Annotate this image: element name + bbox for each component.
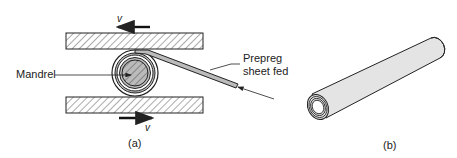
feed-direction-arrow-icon [238, 87, 274, 99]
top-plate [66, 33, 203, 49]
prepreg-label-line1: Prepreg [243, 52, 282, 65]
panel-a [55, 27, 274, 118]
prepreg-label-line2: sheet fed [243, 65, 288, 78]
panel-b [303, 37, 444, 123]
panel-a-caption: (a) [128, 137, 141, 150]
prepreg-leader-line [210, 64, 240, 70]
bottom-velocity-label: v [145, 121, 150, 134]
panel-b-caption: (b) [383, 139, 396, 152]
mandrel-label: Mandrel [16, 68, 56, 81]
rolled-tube [303, 37, 444, 123]
top-velocity-label: v [117, 12, 122, 25]
figure-canvas [0, 0, 457, 158]
mandrel [122, 60, 148, 86]
bottom-plate [66, 97, 203, 113]
